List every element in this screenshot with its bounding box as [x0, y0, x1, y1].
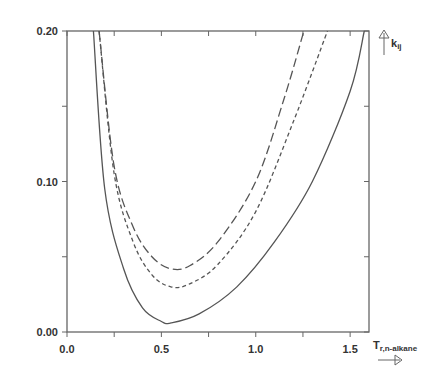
y-tick-label: 0.10 [37, 176, 58, 188]
x-axis-label: Tr,n-alkane [373, 339, 418, 353]
curve-solid [93, 31, 364, 324]
x-tick-label: 1.5 [342, 343, 357, 355]
y-arrow-icon [379, 30, 389, 55]
curves [93, 31, 364, 324]
x-tick-label: 1.0 [248, 343, 263, 355]
chart: 0.00.51.01.50.000.100.20Tr,n-alkanekij [0, 0, 441, 370]
plot-frame [62, 31, 369, 337]
axis-labels: 0.00.51.01.50.000.100.20Tr,n-alkanekij [37, 25, 418, 365]
curve-short-dash [99, 31, 327, 288]
x-tick-label: 0.5 [154, 343, 169, 355]
y-tick-label: 0.00 [37, 326, 58, 338]
y-tick-label: 0.20 [37, 25, 58, 37]
x-arrow-icon [378, 355, 402, 365]
y-axis-label: kij [391, 37, 402, 51]
plot-border [67, 31, 369, 332]
x-tick-label: 0.0 [59, 343, 74, 355]
